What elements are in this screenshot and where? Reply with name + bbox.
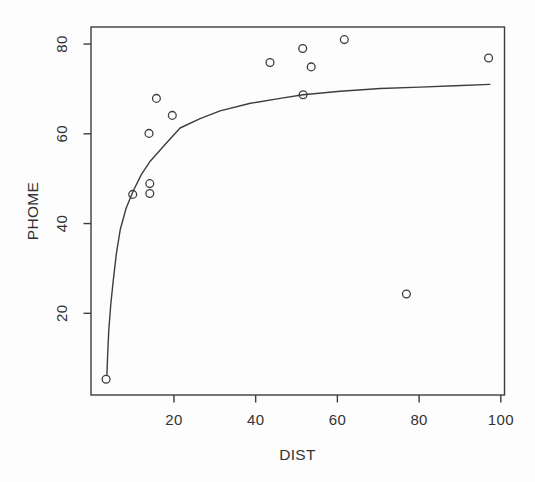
data-point	[266, 59, 274, 67]
data-point	[153, 95, 161, 103]
scatter-plot: 20406080100 20406080 DIST PHOME	[0, 0, 535, 482]
y-axis-label: PHOME	[24, 182, 41, 240]
plot-canvas: 20406080100 20406080 DIST PHOME	[0, 0, 535, 482]
data-point	[307, 63, 315, 71]
x-tick-label: 100	[488, 411, 514, 428]
y-tick-label: 60	[53, 125, 70, 142]
x-tick-label: 40	[247, 411, 264, 428]
data-point	[299, 45, 307, 53]
data-point	[340, 36, 348, 44]
y-tick-label: 80	[53, 35, 70, 52]
data-point	[146, 190, 154, 198]
plot-frame	[91, 27, 505, 395]
data-point	[168, 112, 176, 120]
data-point	[403, 290, 411, 298]
data-points	[102, 36, 492, 384]
x-tick-label: 60	[329, 411, 346, 428]
x-axis-label: DIST	[279, 446, 316, 463]
x-axis-ticks: 20406080100	[165, 395, 513, 428]
x-tick-label: 80	[410, 411, 427, 428]
fitted-curve-line	[107, 84, 490, 374]
data-point	[102, 375, 110, 383]
data-point	[146, 180, 154, 188]
y-axis-ticks: 20406080	[53, 35, 91, 322]
y-tick-label: 20	[53, 305, 70, 322]
y-tick-label: 40	[53, 215, 70, 232]
data-point	[145, 130, 153, 138]
x-tick-label: 20	[165, 411, 182, 428]
data-point	[485, 54, 493, 62]
